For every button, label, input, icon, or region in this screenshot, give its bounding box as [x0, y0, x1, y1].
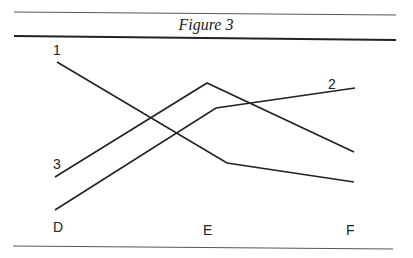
series-1-line [57, 62, 354, 182]
series-2-label: 2 [328, 76, 336, 92]
line-diagram: Figure 3 1 2 3 D E F [0, 0, 413, 258]
x-label-e: E [203, 222, 212, 238]
figure-title: Figure 3 [178, 16, 234, 34]
title-bottom-rule [14, 36, 396, 40]
series-1-label: 1 [53, 42, 61, 58]
x-label-f: F [346, 222, 355, 238]
series-3-line [55, 83, 354, 177]
top-thin-rule [14, 12, 396, 15]
series-3-label: 3 [53, 156, 61, 172]
bottom-rule [13, 246, 393, 249]
x-label-d: D [53, 219, 63, 235]
figure-3: Figure 3 1 2 3 D E F [0, 0, 413, 258]
